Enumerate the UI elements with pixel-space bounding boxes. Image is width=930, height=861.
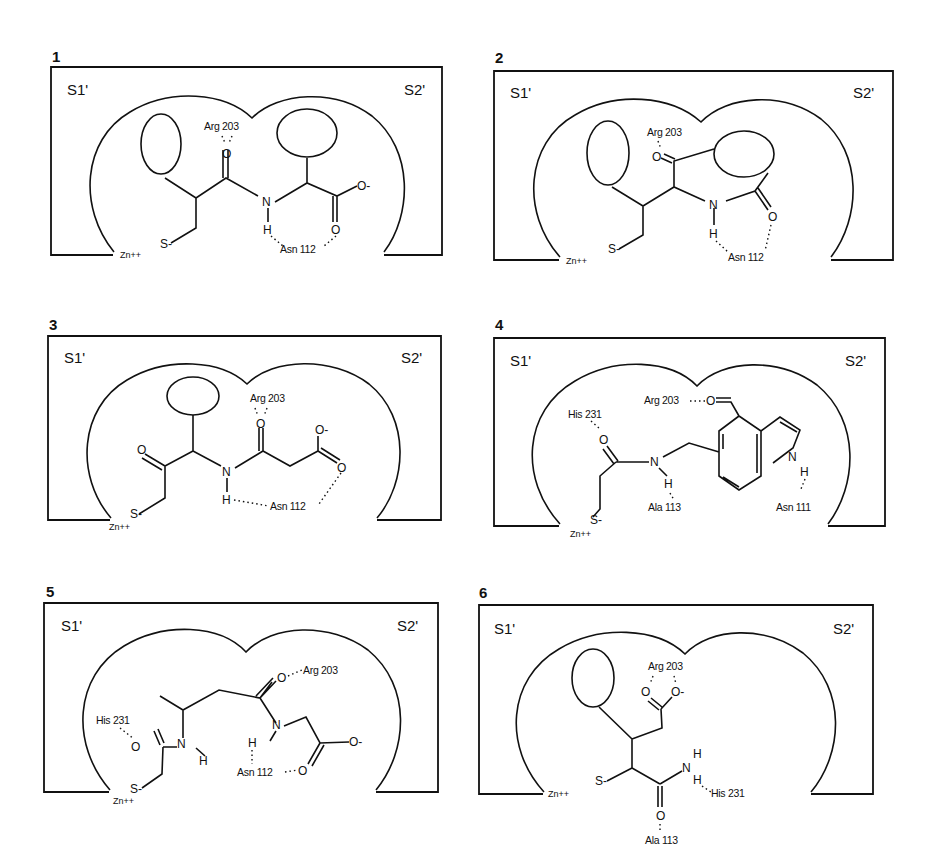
cavity-outline [87, 364, 400, 518]
site-label-s2: S2' [404, 81, 425, 98]
panel-6: 6 S1' S2' Arg 203 O O- N H H His 231 S- … [479, 584, 873, 846]
aldehyde-bonds [716, 398, 739, 416]
hydrophobic-group-s1 [141, 114, 181, 174]
zinc-ion: Zn++ [570, 529, 591, 539]
hbond-asn112-o [285, 770, 298, 772]
zinc-ion: Zn++ [548, 789, 569, 799]
residue-ala113: Ala 113 [648, 501, 681, 513]
site-label-s1: S1' [61, 617, 82, 634]
thiolate: S- [160, 237, 172, 251]
thiolate: S- [595, 774, 607, 788]
thiolate: S- [590, 513, 602, 527]
box-outline [494, 71, 893, 260]
hydrophobic-group [167, 377, 219, 415]
hbond-asn111 [801, 479, 805, 489]
site-label-s1: S1' [510, 352, 531, 369]
atom-h: H [199, 754, 208, 768]
residue-arg203: Arg 203 [303, 664, 338, 676]
atom-o: O [277, 671, 286, 685]
panel-1: 1 S1' S2' Arg 203 O N H O- O S- Zn++ Asn… [51, 48, 442, 260]
site-label-s2: S2' [401, 349, 422, 366]
residue-asn112: Asn 112 [270, 500, 306, 512]
atom-h: H [693, 773, 702, 787]
residue-his231: His 231 [568, 408, 602, 420]
hbond-arg203 [288, 670, 302, 676]
site-label-s2: S2' [397, 617, 418, 634]
residue-ala113: Ala 113 [645, 834, 678, 846]
indole-h: H [800, 465, 809, 479]
zinc-ion: Zn++ [109, 522, 130, 532]
hbond-arg203 [255, 408, 267, 416]
atom-o-minus: O- [671, 685, 684, 699]
hbond-his231 [702, 786, 711, 792]
atom-o-minus: O- [315, 423, 328, 437]
panel-number: 1 [52, 48, 60, 65]
residue-asn112: Asn 112 [237, 766, 273, 778]
zinc-ion: Zn++ [113, 796, 134, 806]
hydrophobic-group [572, 649, 614, 707]
panel-number: 4 [495, 316, 504, 333]
atom-o: O [656, 809, 665, 823]
atom-o: O [652, 150, 661, 164]
ligand-bonds [165, 150, 357, 243]
cavity-outline [90, 96, 404, 252]
atom-o-minus: O- [357, 179, 370, 193]
residue-arg203: Arg 203 [647, 126, 682, 138]
site-label-s1: S1' [64, 349, 85, 366]
site-label-s1: S1' [510, 84, 531, 101]
zinc-ion: Zn++ [120, 250, 141, 260]
panel-3: 3 S1' S2' O Arg 203 O O- O N H Asn 112 S… [48, 316, 441, 532]
atom-o: O [599, 433, 608, 447]
atom-n: N [177, 737, 186, 751]
hbond-asn112 [716, 225, 771, 252]
box-outline [479, 605, 873, 794]
atom-o: O [222, 147, 231, 161]
residue-arg203: Arg 203 [250, 392, 285, 404]
atom-o: O [768, 210, 777, 224]
thiolate: S- [608, 242, 620, 256]
box-outline [44, 603, 438, 792]
atom-o: O [706, 394, 715, 408]
box-outline [51, 67, 442, 255]
hbond-arg203 [658, 141, 661, 149]
hbond-his231 [120, 728, 134, 739]
thiolate: S- [130, 507, 142, 521]
atom-h: H [664, 477, 673, 491]
ligand-bonds [139, 415, 340, 514]
residue-asn111: Asn 111 [776, 501, 811, 513]
site-label-s1: S1' [67, 81, 88, 98]
atom-o-minus: O- [349, 735, 362, 749]
zinc-ion: Zn++ [566, 256, 587, 266]
residue-asn112: Asn 112 [280, 243, 316, 255]
atom-n: N [709, 198, 718, 212]
cavity-outline [516, 632, 835, 792]
atom-n: N [262, 195, 271, 209]
atom-o: O [641, 685, 650, 699]
atom-n: N [222, 465, 231, 479]
atom-o: O [131, 740, 140, 754]
residue-his231: His 231 [96, 714, 130, 726]
site-label-s2: S2' [853, 84, 874, 101]
atom-h: H [263, 223, 272, 237]
ligand-bonds [599, 697, 682, 807]
panel-4: 4 S1' S2' Arg 203 O His 231 O N H N H Al… [494, 316, 885, 539]
hydrophobic-group-s1 [587, 121, 629, 185]
hbond-arg203 [222, 136, 232, 143]
atom-n: N [650, 455, 659, 469]
panel-number: 6 [479, 584, 487, 601]
residue-asn112: Asn 112 [728, 251, 764, 263]
site-label-s2: S2' [845, 352, 866, 369]
panel-number: 3 [49, 316, 57, 333]
hbond-ala113 [670, 493, 674, 500]
atom-n: N [682, 761, 691, 775]
atom-n: N [272, 718, 281, 732]
panel-number: 5 [46, 583, 54, 600]
atom-h: H [248, 736, 257, 750]
atom-o: O [137, 443, 146, 457]
hbond-arg203 [650, 676, 676, 684]
panel-5: 5 S1' S2' O Arg 203 His 231 O N H N H O-… [44, 583, 438, 806]
cavity-outline [534, 99, 853, 257]
box-outline [494, 338, 885, 526]
panel-2: 2 S1' S2' Arg 203 O N H O S- Zn++ Asn 11… [494, 49, 893, 266]
atom-o: O [256, 417, 265, 431]
